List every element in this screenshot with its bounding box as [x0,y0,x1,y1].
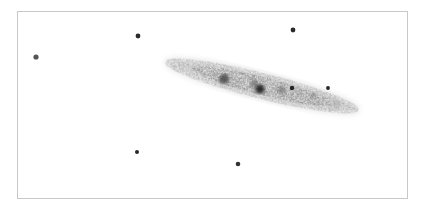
star [326,86,330,90]
galaxy-core [256,85,265,94]
galaxy [162,49,362,123]
galaxy-knot [219,74,229,84]
star [136,34,141,39]
star [135,150,139,154]
star [236,162,241,167]
star [290,86,294,90]
galaxy-knot [310,92,316,98]
galaxy-knot [278,86,286,94]
galaxy-sketch [0,0,426,209]
star [33,54,38,59]
star [291,28,296,33]
sky-field [0,0,426,209]
galaxy-knot [331,99,341,109]
